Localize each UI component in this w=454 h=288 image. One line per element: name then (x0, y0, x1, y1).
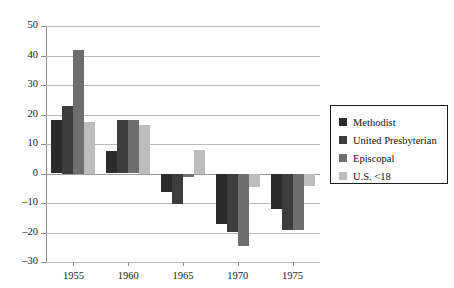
legend-item: U.S. <18 (339, 167, 447, 185)
gridline (46, 56, 320, 57)
bar (117, 120, 128, 173)
y-axis-tick-label: –10 (8, 196, 38, 207)
bar (216, 174, 227, 224)
x-axis-tick-label: 1960 (103, 270, 153, 281)
x-axis-tick-label: 1965 (158, 270, 208, 281)
bar (304, 174, 315, 186)
bar (194, 150, 205, 174)
x-tick-mark (183, 262, 184, 266)
y-tick-mark (41, 85, 46, 86)
legend-item: Methodist (339, 113, 447, 131)
y-tick-mark (41, 56, 46, 57)
chart-figure: MethodistUnited PresbyterianEpiscopalU.S… (0, 0, 454, 288)
x-tick-mark (73, 262, 74, 266)
bar (172, 174, 183, 204)
legend-item-label: Episcopal (353, 153, 394, 164)
y-axis-tick-label: 40 (8, 49, 38, 60)
gridline (46, 233, 320, 234)
y-tick-mark (41, 115, 46, 116)
y-tick-mark (41, 26, 46, 27)
y-tick-mark (41, 144, 46, 145)
bar (293, 174, 304, 230)
legend-item: Episcopal (339, 149, 447, 167)
legend-swatch-icon (339, 154, 347, 162)
legend-swatch-icon (339, 172, 347, 180)
bar (84, 122, 95, 174)
bar (271, 174, 282, 209)
x-tick-mark (293, 262, 294, 266)
bar (238, 174, 249, 246)
legend-item-label: United Presbyterian (353, 135, 437, 146)
y-tick-mark (41, 262, 46, 263)
bar (139, 125, 150, 174)
x-tick-mark (128, 262, 129, 266)
bar (282, 174, 293, 230)
x-axis-tick-label: 1955 (48, 270, 98, 281)
bar (62, 106, 73, 174)
bar (51, 120, 62, 173)
bar (161, 174, 172, 192)
y-axis-tick-label: 0 (8, 167, 38, 178)
y-axis-tick-label: –20 (8, 226, 38, 237)
bar (106, 151, 117, 173)
bar (73, 50, 84, 174)
y-axis-tick-label: 10 (8, 137, 38, 148)
bar (249, 174, 260, 187)
y-axis-tick-label: 30 (8, 78, 38, 89)
bar (227, 174, 238, 232)
legend-swatch-icon (339, 136, 347, 144)
legend-item-label: Methodist (353, 117, 396, 128)
x-tick-mark (238, 262, 239, 266)
legend-item: United Presbyterian (339, 131, 447, 149)
legend-item-label: U.S. <18 (353, 171, 391, 182)
bar (128, 120, 139, 173)
gridline (46, 115, 320, 116)
y-axis-tick-label: 50 (8, 19, 38, 30)
y-axis-tick-label: –30 (8, 255, 38, 266)
legend: MethodistUnited PresbyterianEpiscopalU.S… (330, 105, 448, 184)
gridline (46, 85, 320, 86)
y-tick-mark (41, 203, 46, 204)
y-tick-mark (41, 233, 46, 234)
x-axis-tick-label: 1975 (268, 270, 318, 281)
legend-swatch-icon (339, 118, 347, 126)
x-axis-tick-label: 1970 (213, 270, 263, 281)
y-axis-tick-label: 20 (8, 108, 38, 119)
gridline (46, 26, 320, 27)
bar (183, 174, 194, 177)
y-tick-mark (41, 174, 46, 175)
